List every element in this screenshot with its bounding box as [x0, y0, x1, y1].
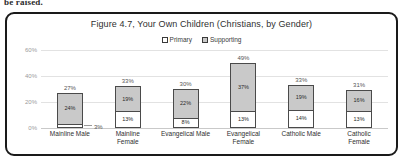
- bar-total-label: 30%: [180, 81, 192, 87]
- category-axis: Mainline MaleMainlineFemaleEvangelical M…: [41, 130, 388, 146]
- legend-swatch-primary-icon: [162, 37, 168, 43]
- bar-segment-value: 37%: [238, 85, 249, 91]
- bar-segment-supporting[interactable]: 37%: [230, 63, 256, 111]
- legend-label-supporting: Supporting: [210, 36, 241, 43]
- bar-segment-value: 8%: [182, 120, 190, 126]
- bars-container: 24%27%3%19%13%33%22%8%30%37%13%49%19%14%…: [41, 50, 388, 128]
- bar-segment-value: 13%: [354, 117, 365, 123]
- bar-total-label: 33%: [122, 78, 134, 84]
- bar-segment-supporting[interactable]: 19%: [288, 85, 314, 110]
- bar-segment-supporting[interactable]: 16%: [346, 90, 372, 111]
- y-axis-tick-label: 0%: [28, 125, 37, 131]
- page-text-fragment: be raised.: [4, 0, 43, 7]
- bar-stack[interactable]: 22%8%30%: [173, 89, 199, 128]
- y-axis: 0%20%40%60%: [17, 50, 39, 128]
- legend-swatch-supporting-icon: [202, 37, 208, 43]
- category-label: Catholic Male: [272, 130, 330, 146]
- bar-segment-value: 24%: [64, 106, 75, 112]
- bar-segment-value: 14%: [296, 116, 307, 122]
- bar-segment-primary[interactable]: 13%: [230, 111, 256, 128]
- y-axis-tick-label: 40%: [25, 73, 37, 79]
- category-label: MainlineFemale: [99, 130, 157, 146]
- bar-stack[interactable]: 19%14%33%: [288, 85, 314, 128]
- bar-segment-value: 13%: [122, 117, 133, 123]
- figure-frame: Figure 4.7, Your Own Children (Christian…: [5, 12, 398, 156]
- chart-title: Figure 4.7, Your Own Children (Christian…: [7, 19, 396, 29]
- bar-segment-primary[interactable]: 8%: [173, 118, 199, 128]
- bar-segment-value: 19%: [296, 95, 307, 101]
- bar-total-label: 31%: [353, 82, 365, 88]
- bar-stack[interactable]: 24%27%3%: [57, 93, 83, 128]
- chart-legend: Primary Supporting: [7, 36, 396, 43]
- category-label: Evangelical Male: [157, 130, 215, 146]
- bar-total-label: 27%: [64, 85, 76, 91]
- category-label: CatholicFemale: [330, 130, 388, 146]
- bar-stack[interactable]: 37%13%49%: [230, 63, 256, 128]
- bar-segment-value: 19%: [122, 97, 133, 103]
- bar-group: 19%14%33%: [272, 50, 330, 128]
- bar-segment-primary[interactable]: 13%: [346, 111, 372, 128]
- bar-segment-supporting[interactable]: 22%: [173, 89, 199, 118]
- category-label: EvangelicalFemale: [214, 130, 272, 146]
- y-axis-tick-label: 20%: [25, 99, 37, 105]
- bar-group: 24%27%3%: [41, 50, 99, 128]
- bar-group: 16%13%31%: [330, 50, 388, 128]
- bar-segment-supporting[interactable]: 19%: [115, 86, 141, 111]
- plot-area: 0%20%40%60% 24%27%3%19%13%33%22%8%30%37%…: [17, 50, 390, 154]
- legend-item-supporting: Supporting: [202, 36, 241, 43]
- bar-stack[interactable]: 16%13%31%: [346, 90, 372, 128]
- legend-label-primary: Primary: [170, 36, 192, 43]
- callout-leader-line: [84, 125, 92, 126]
- category-label: Mainline Male: [41, 130, 99, 146]
- bar-segment-supporting[interactable]: 24%: [57, 93, 83, 124]
- bar-segment-value: 16%: [354, 98, 365, 104]
- bar-segment-value: 22%: [180, 101, 191, 107]
- bar-total-label: 49%: [237, 55, 249, 61]
- bar-group: 37%13%49%: [214, 50, 272, 128]
- bar-segment-primary[interactable]: 13%: [115, 111, 141, 128]
- y-axis-tick-label: 60%: [25, 47, 37, 53]
- bar-stack[interactable]: 19%13%33%: [115, 86, 141, 128]
- bar-total-label: 33%: [295, 77, 307, 83]
- bar-segment-value: 13%: [238, 117, 249, 123]
- bar-segment-primary[interactable]: 14%: [288, 110, 314, 128]
- legend-item-primary: Primary: [162, 36, 192, 43]
- bar-group: 19%13%33%: [99, 50, 157, 128]
- bar-group: 22%8%30%: [157, 50, 215, 128]
- bar-segment-primary[interactable]: [57, 124, 83, 128]
